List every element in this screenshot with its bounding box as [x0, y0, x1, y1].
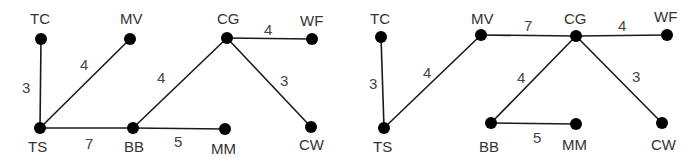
- graph-left-node-tc: [35, 33, 47, 45]
- graph-right-node-label-mm: MM: [562, 136, 587, 153]
- graph-right-node-cw: [656, 117, 668, 129]
- graph-left-edge-weight-tc-ts: 3: [22, 79, 30, 96]
- graph-right-node-mv: [475, 29, 487, 41]
- graph-right-edge-weight-ts-mv: 4: [423, 64, 431, 81]
- graph-left-edge-tc-ts: [40, 39, 41, 128]
- graph-right-edge-weight-cg-cw: 3: [632, 68, 640, 85]
- node-labels-layer: TCMVTSBBCGWFMMCWTCMVTSBBCGWFMMCW: [28, 8, 677, 157]
- graph-left-edge-weight-ts-bb: 7: [85, 135, 93, 152]
- graph-left-node-label-cw: CW: [299, 136, 325, 153]
- graph-right-node-label-wf: WF: [654, 8, 677, 25]
- graph-right-edge-mv-cg: [481, 35, 576, 36]
- graph-right-node-ts: [378, 122, 390, 134]
- graph-left-edge-weight-ts-mv: 4: [80, 56, 88, 73]
- graph-left-edge-bb-cg: [133, 38, 227, 128]
- graph-left-node-mm: [219, 123, 231, 135]
- graph-right-edge-weight-tc-ts: 3: [369, 75, 377, 92]
- graph-right-edge-tc-ts: [381, 37, 384, 128]
- graph-right-node-label-cg: CG: [564, 10, 587, 27]
- graph-left-node-cg: [221, 32, 233, 44]
- graph-diagram-canvas: 34754433474435 TCMVTSBBCGWFMMCWTCMVTSBBC…: [0, 0, 699, 163]
- graph-left-edge-weight-cg-cw: 3: [280, 72, 288, 89]
- graph-right-node-wf: [661, 29, 673, 41]
- graph-left-node-label-tc: TC: [30, 10, 50, 27]
- graph-right-node-label-bb: BB: [479, 138, 499, 155]
- graph-left-node-label-ts: TS: [28, 138, 47, 155]
- graph-left-node-mv: [124, 33, 136, 45]
- graph-right-edge-ts-mv: [384, 35, 481, 128]
- graph-right-node-label-cw: CW: [651, 136, 677, 153]
- graph-left-edge-cg-cw: [227, 38, 311, 127]
- graph-right-node-label-tc: TC: [370, 10, 390, 27]
- graph-left-node-ts: [34, 122, 46, 134]
- graph-left-node-cw: [305, 121, 317, 133]
- graph-left-edge-ts-mv: [40, 39, 130, 128]
- graph-right-edge-cg-cw: [576, 36, 662, 123]
- graph-left-node-label-bb: BB: [124, 138, 144, 155]
- graph-left-node-wf: [306, 33, 318, 45]
- graph-right-node-tc: [375, 31, 387, 43]
- graph-left-edge-weight-cg-wf: 4: [264, 21, 272, 38]
- graph-right-edge-cg-wf: [576, 35, 667, 36]
- graph-left-node-bb: [127, 122, 139, 134]
- edge-weights-layer: 34754433474435: [22, 17, 640, 152]
- graph-right-node-cg: [570, 30, 582, 42]
- graph-left-edge-cg-wf: [227, 38, 312, 39]
- graph-right-edge-weight-mv-cg: 7: [524, 17, 532, 34]
- nodes-layer: [34, 29, 673, 135]
- graph-right-node-label-mv: MV: [471, 10, 494, 27]
- graph-right-edge-bb-mm: [491, 123, 576, 124]
- graph-left-edge-weight-bb-cg: 4: [157, 69, 165, 86]
- graph-left-node-label-cg: CG: [217, 10, 240, 27]
- graph-right-node-mm: [570, 118, 582, 130]
- graph-left-node-label-mv: MV: [120, 10, 143, 27]
- graph-left-node-label-mm: MM: [211, 140, 236, 157]
- graph-left-node-label-wf: WF: [300, 12, 323, 29]
- graph-left-edge-weight-bb-mm: 5: [174, 133, 182, 150]
- edges-layer: [40, 35, 667, 129]
- graph-right-edge-weight-cg-wf: 4: [618, 17, 626, 34]
- graph-right-node-bb: [485, 117, 497, 129]
- graph-right-edge-weight-cg-bb: 4: [517, 69, 525, 86]
- graph-right-node-label-ts: TS: [373, 138, 392, 155]
- graph-left-edge-bb-mm: [133, 128, 225, 129]
- graph-right-edge-cg-bb: [491, 36, 576, 123]
- graph-right-edge-weight-bb-mm: 5: [533, 129, 541, 146]
